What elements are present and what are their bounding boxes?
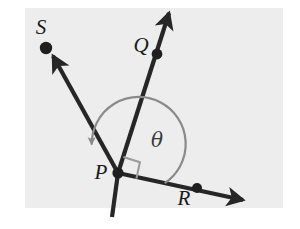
angle-label-theta: θ (151, 128, 163, 152)
point-label-s: S (36, 15, 47, 39)
figure-canvas: S Q P R θ (0, 0, 300, 229)
point-dot-q (152, 49, 163, 60)
geometry-figure: S Q P R θ (0, 0, 300, 229)
point-dot-r (192, 183, 202, 193)
figure-panel-background (25, 8, 283, 208)
point-label-p: P (94, 160, 108, 184)
point-dot-s (40, 42, 52, 54)
point-dot-p (112, 167, 123, 178)
point-label-q: Q (133, 33, 148, 57)
point-label-r: R (177, 186, 191, 210)
